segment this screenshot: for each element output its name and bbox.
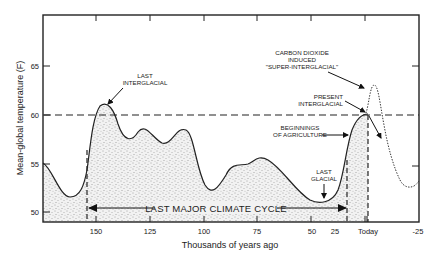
last-interglacial-label: INTERGLACIAL [123,79,168,86]
y-tick-label: 60 [31,111,39,120]
x-axis-label: Thousands of years ago [182,240,279,250]
agriculture-label: BEGINNINGS [281,124,320,131]
y-tick-label: 50 [31,208,39,217]
y-tick-label: 65 [31,62,39,71]
co2-label: INDUCED [288,56,317,63]
x-tick-label: 75 [253,227,261,236]
last-interglacial-label: LAST [137,72,153,79]
x-tick-label: 150 [90,227,103,236]
present-interglacial-label: PRESENT [314,93,343,100]
co2-arrow [328,72,364,88]
today-drop-arrow [369,116,381,138]
present-interglacial-arrow [345,101,365,112]
present-interglacial-label: INTERGLACIAL [298,100,343,107]
agriculture-label: OF AGRICULTURE [273,131,327,138]
y-axis-label: Mean-global temperature (F) [15,61,25,176]
x-tick-label: -25 [413,227,424,236]
x-tick-label: 100 [198,227,211,236]
co2-label: CARBON DIOXIDE [275,49,329,56]
x-tick-label: 50 [308,227,316,236]
cycle-label: LAST MAJOR CLIMATE CYCLE [145,203,287,214]
last-interglacial-arrow [108,88,123,104]
last-glacial-label: GLACIAL [311,175,338,182]
climate-chart: 65 60 55 50 150 125 100 75 50 25 Today -… [0,0,441,254]
co2-label: "SUPER-INTERGLACIAL" [266,63,338,70]
x-tick-label: 25 [331,227,339,236]
y-tick-label: 55 [31,160,39,169]
x-tick-label: Today [358,227,378,236]
x-tick-label: 125 [144,227,157,236]
last-glacial-label: LAST [316,168,332,175]
co2-projection-curve [366,85,419,187]
